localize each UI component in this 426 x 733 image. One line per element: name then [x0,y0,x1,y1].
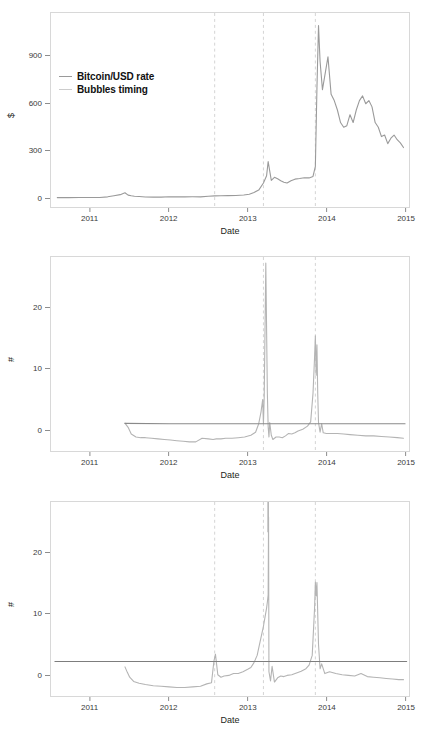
x-axis-tick: 2012 [160,452,178,467]
y-axis-tick-label: 0 [38,194,42,204]
x-axis-tick-label: 2011 [81,703,98,712]
x-axis-tick-label: 2011 [81,214,98,223]
legend-swatch-icon [59,89,72,90]
y-axis-tick-label: 10 [33,609,42,619]
x-axis-tick-mark [406,208,407,212]
x-axis-tick-mark [326,452,327,456]
panel-2-svg [51,257,409,451]
x-axis-tick-mark [168,208,169,212]
x-axis-tick-label: 2015 [397,214,415,223]
x-axis-tick-label: 2012 [160,214,178,223]
panel-3-svg [51,502,409,696]
bitcoin-bubble-figure: $ 0300600900 20112012201320142015 Date B… [0,0,426,733]
x-axis-tick-label: 2015 [397,458,415,467]
x-axis-tick-mark [326,208,327,212]
x-axis-tick-mark [89,208,90,212]
x-axis-tick-mark [89,697,90,701]
series-line [125,263,404,442]
panel-1-svg [51,13,409,207]
x-axis-tick: 2015 [397,452,415,467]
y-axis-tick: 600 [29,99,50,109]
x-axis-tick-label: 2014 [318,703,336,712]
x-axis-tick: 2013 [239,697,257,712]
x-axis-tick-mark [406,697,407,701]
x-axis-tick: 2011 [81,208,98,223]
panel-2-plot-area [50,256,410,452]
x-axis-tick: 2013 [239,452,257,467]
x-axis-tick-label: 2014 [318,458,336,467]
series-line [57,26,403,198]
panel-1-x-axis-title: Date [50,226,410,236]
legend-item: Bitcoin/USD rate [59,70,154,83]
panel-3-y-ticks: 01020 [0,501,50,697]
y-axis-tick-label: 900 [29,51,42,61]
y-axis-tick-label: 20 [33,548,42,558]
panel-2-x-axis-title: Date [50,470,410,480]
x-axis-tick-label: 2015 [397,703,415,712]
y-axis-tick: 10 [33,609,50,619]
x-axis-tick-mark [247,697,248,701]
x-axis-tick-label: 2013 [239,458,257,467]
x-axis-tick-mark [89,452,90,456]
x-axis-tick-mark [168,452,169,456]
panel-3-x-axis-title: Date [50,715,410,725]
x-axis-tick-mark [168,697,169,701]
panel-1-legend: Bitcoin/USD rateBubbles timing [56,68,157,98]
panel-3-plot-area [50,501,410,697]
y-axis-tick: 900 [29,51,50,61]
y-axis-tick: 10 [33,364,50,374]
x-axis-tick-mark [247,452,248,456]
panel-sup-adf: # 01020 20112012201320142015 Date 95% te… [0,244,426,488]
x-axis-tick-label: 2014 [318,214,336,223]
x-axis-tick-mark [326,697,327,701]
y-axis-tick: 0 [38,426,50,436]
x-axis-tick: 2011 [81,697,98,712]
y-axis-tick-label: 600 [29,99,42,109]
x-axis-tick: 2015 [397,697,415,712]
y-axis-tick: 300 [29,146,50,156]
y-axis-tick-label: 20 [33,303,42,313]
y-axis-tick: 20 [33,548,50,558]
panel-1-plot-area [50,12,410,208]
x-axis-tick: 2012 [160,208,178,223]
x-axis-tick-label: 2012 [160,458,178,467]
y-axis-tick-label: 0 [38,426,42,436]
y-axis-tick: 0 [38,194,50,204]
x-axis-tick: 2011 [81,452,98,467]
panel-2-y-ticks: 01020 [0,256,50,452]
panel-generalized-sup-adf: # 01020 20112012201320142015 Date 95% cr… [0,489,426,733]
panel-1-y-ticks: 0300600900 [0,12,50,208]
x-axis-tick-label: 2011 [81,458,98,467]
x-axis-tick-label: 2013 [239,214,257,223]
x-axis-tick: 2012 [160,697,178,712]
y-axis-tick: 20 [33,303,50,313]
legend-item: Bubbles timing [59,83,154,96]
x-axis-tick-label: 2012 [160,703,178,712]
x-axis-tick: 2014 [318,208,336,223]
y-axis-tick-label: 0 [38,671,42,681]
x-axis-tick: 2015 [397,208,415,223]
x-axis-tick: 2014 [318,697,336,712]
panel-bitcoin-price: $ 0300600900 20112012201320142015 Date B… [0,0,426,244]
x-axis-tick: 2014 [318,452,336,467]
x-axis-tick-mark [406,452,407,456]
legend-label: Bitcoin/USD rate [77,71,154,82]
x-axis-tick-label: 2013 [239,703,257,712]
y-axis-tick: 0 [38,671,50,681]
legend-label: Bubbles timing [77,84,148,95]
x-axis-tick: 2013 [239,208,257,223]
y-axis-tick-label: 300 [29,146,42,156]
legend-swatch-icon [59,76,72,77]
y-axis-tick-label: 10 [33,364,42,374]
x-axis-tick-mark [247,208,248,212]
